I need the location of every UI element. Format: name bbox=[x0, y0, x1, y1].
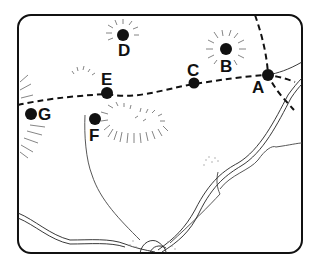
point-d-marker bbox=[117, 29, 129, 41]
point-e: E bbox=[101, 70, 113, 99]
point-g: G bbox=[25, 105, 51, 124]
hill-e bbox=[72, 66, 95, 75]
point-d-label: D bbox=[118, 41, 130, 60]
point-g-marker bbox=[25, 108, 37, 120]
stipple bbox=[129, 156, 218, 249]
point-f: F bbox=[89, 113, 101, 145]
map-border bbox=[18, 15, 302, 253]
point-d: D bbox=[117, 29, 130, 60]
point-g-label: G bbox=[38, 105, 51, 124]
point-f-marker bbox=[89, 113, 101, 125]
point-e-label: E bbox=[101, 70, 112, 89]
point-a-label: A bbox=[252, 78, 264, 97]
point-b-label: B bbox=[220, 57, 232, 76]
point-b: B bbox=[220, 43, 232, 76]
hill-hachures bbox=[20, 19, 246, 158]
point-c: C bbox=[187, 61, 200, 89]
point-f-label: F bbox=[89, 126, 99, 145]
point-a: A bbox=[252, 69, 274, 97]
ridge-hachures bbox=[101, 102, 168, 143]
point-c-label: C bbox=[187, 61, 199, 80]
point-b-marker bbox=[220, 43, 232, 55]
topographic-map: A B C D E F G bbox=[0, 0, 316, 267]
